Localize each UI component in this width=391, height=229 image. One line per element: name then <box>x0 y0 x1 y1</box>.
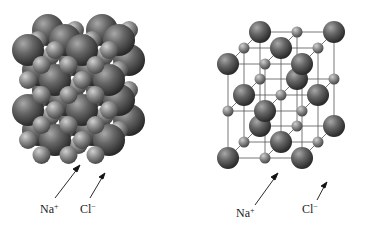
na-ion-sphere <box>223 106 234 117</box>
na-ion-sphere <box>60 56 78 74</box>
na-ion-sphere <box>33 116 51 134</box>
arrowhead-icon <box>271 173 278 180</box>
cl-ion-sphere <box>291 147 313 169</box>
na-ion-sphere <box>239 137 250 148</box>
cl-ion-sphere <box>307 84 329 106</box>
na-ion-sphere <box>73 71 91 89</box>
na-ion-sphere <box>329 74 340 85</box>
na-ion-sphere <box>46 41 64 59</box>
na-ion-sphere <box>33 56 51 74</box>
cl-ion-sphere <box>233 84 255 106</box>
label-cl-right: Cl− <box>302 203 318 215</box>
nacl-diagram <box>0 0 391 229</box>
cl-symbol: Cl <box>80 202 91 216</box>
cl-ion-sphere <box>217 53 239 75</box>
label-na-right: Na+ <box>236 207 255 219</box>
label-arrows <box>55 165 327 205</box>
na-ion-sphere <box>87 56 105 74</box>
arrowhead-icon <box>99 173 105 179</box>
na-ion-sphere <box>60 146 78 164</box>
na-ion-sphere <box>292 121 303 132</box>
na-ion-sphere <box>73 131 91 149</box>
na-ion-sphere <box>260 59 271 70</box>
cl-charge: − <box>91 202 96 211</box>
ball-and-stick-model <box>217 21 345 169</box>
na-ion-sphere <box>46 101 64 119</box>
cl-ion-sphere <box>249 21 271 43</box>
label-cl-left: Cl− <box>80 203 96 215</box>
arrowhead-icon <box>73 165 80 172</box>
na-ion-sphere <box>60 116 78 134</box>
arrow-cl-left <box>90 176 103 198</box>
na-ion-sphere <box>33 146 51 164</box>
label-na-left: Na+ <box>40 203 59 215</box>
na-ion-sphere <box>87 116 105 134</box>
na-ion-sphere <box>239 43 250 54</box>
na-ion-sphere <box>60 86 78 104</box>
na-ion-sphere <box>313 137 324 148</box>
space-filling-model <box>12 14 145 164</box>
cl-ion-sphere <box>270 37 292 59</box>
na-ion-sphere <box>33 86 51 104</box>
cl-ion-sphere <box>270 131 292 153</box>
cl-symbol: Cl <box>302 202 313 216</box>
na-symbol: Na <box>236 206 250 220</box>
cl-ion-sphere <box>217 147 239 169</box>
na-ion-sphere <box>87 146 105 164</box>
na-ion-sphere <box>87 86 105 104</box>
na-charge: + <box>250 206 255 215</box>
na-ion-sphere <box>313 43 324 54</box>
cl-ion-sphere <box>323 21 345 43</box>
na-ion-sphere <box>292 27 303 38</box>
na-charge: + <box>54 202 59 211</box>
na-ion-sphere <box>276 90 287 101</box>
arrow-na-right <box>255 176 276 205</box>
arrowhead-icon <box>321 182 327 188</box>
na-ion-sphere <box>260 153 271 164</box>
cl-ion-sphere <box>291 53 313 75</box>
na-ion-sphere <box>19 71 37 89</box>
na-ion-sphere <box>100 41 118 59</box>
na-ion-sphere <box>100 101 118 119</box>
na-ion-sphere <box>19 131 37 149</box>
cl-ion-sphere <box>323 115 345 137</box>
na-ion-sphere <box>255 74 266 85</box>
na-symbol: Na <box>40 202 54 216</box>
cl-charge: − <box>313 202 318 211</box>
arrow-na-left <box>55 168 78 198</box>
na-ion-sphere <box>297 106 308 117</box>
cl-ion-sphere <box>254 100 276 122</box>
